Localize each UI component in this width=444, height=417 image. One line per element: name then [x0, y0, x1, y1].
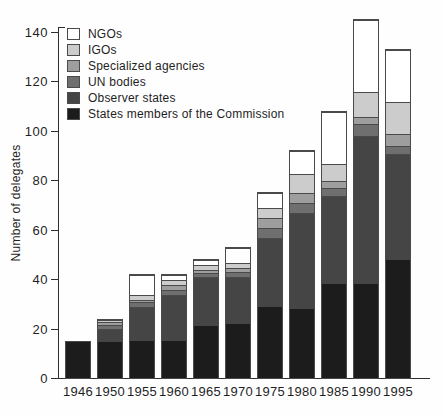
bar-segment-states-members-of-the-commission — [226, 324, 250, 378]
legend-label: NGOs — [88, 27, 122, 41]
bar-segment-un-bodies — [290, 203, 314, 213]
bar-segment-igos — [322, 164, 346, 181]
y-tick — [51, 32, 58, 33]
y-tick-label: 20 — [18, 322, 48, 337]
y-tick — [51, 230, 58, 231]
legend-item-ngos: NGOs — [67, 26, 284, 42]
bar-segment-specialized-agencies — [386, 134, 410, 146]
legend-item-igos: IGOs — [67, 42, 284, 58]
y-axis-title: Number of delegates — [9, 138, 23, 268]
bar-segment-igos — [354, 92, 378, 117]
bar-segment-states-members-of-the-commission — [386, 260, 410, 378]
bar-segment-specialized-agencies — [290, 193, 314, 203]
legend-item-states-members: States members of the Commission — [67, 106, 284, 122]
y-tick-label: 100 — [18, 124, 48, 139]
bar-segment-observer-states — [322, 196, 346, 285]
y-tick-label: 0 — [18, 371, 48, 386]
legend-swatch-un-bodies — [67, 76, 80, 88]
bar-segment-observer-states — [290, 213, 314, 309]
bar-segment-igos — [290, 174, 314, 194]
legend: NGOsIGOsSpecialized agenciesUN bodiesObs… — [67, 26, 284, 122]
legend-swatch-observer-states — [67, 92, 80, 104]
bar-segment-states-members-of-the-commission — [162, 341, 186, 378]
bar-segment-ngos — [226, 248, 250, 263]
y-tick — [51, 279, 58, 280]
legend-label: States members of the Commission — [88, 107, 284, 121]
legend-label: Observer states — [88, 91, 176, 105]
bar-segment-observer-states — [226, 277, 250, 324]
legend-swatch-ngos — [67, 28, 80, 40]
bar-1965 — [193, 259, 219, 379]
y-tick — [51, 81, 58, 82]
bar-segment-states-members-of-the-commission — [354, 284, 378, 378]
legend-swatch-specialized-agencies — [67, 60, 80, 72]
bar-segment-igos — [386, 102, 410, 134]
y-tick — [51, 329, 58, 330]
bar-segment-states-members-of-the-commission — [290, 309, 314, 378]
bar-segment-states-members-of-the-commission — [322, 284, 346, 378]
bar-segment-un-bodies — [354, 124, 378, 136]
legend-swatch-igos — [67, 44, 80, 56]
y-axis-top-hook — [58, 27, 65, 28]
bar-segment-observer-states — [162, 295, 186, 342]
bar-segment-observer-states — [354, 136, 378, 284]
bar-segment-states-members-of-the-commission — [194, 326, 218, 378]
bar-segment-states-members-of-the-commission — [98, 342, 122, 378]
bar-segment-states-members-of-the-commission — [130, 341, 154, 378]
bar-1995 — [385, 49, 411, 379]
bar-segment-observer-states — [130, 307, 154, 341]
bar-segment-specialized-agencies — [322, 181, 346, 188]
bar-1985 — [321, 111, 347, 379]
bar-1946 — [65, 341, 91, 379]
bar-segment-ngos — [322, 112, 346, 164]
legend-item-specialized-agencies: Specialized agencies — [67, 58, 284, 74]
legend-item-un-bodies: UN bodies — [67, 74, 284, 90]
bar-1980 — [289, 150, 315, 379]
bar-segment-un-bodies — [386, 146, 410, 153]
bar-segment-states-members-of-the-commission — [66, 342, 90, 378]
bar-segment-ngos — [258, 193, 282, 208]
bar-1990 — [353, 19, 379, 379]
bar-segment-ngos — [130, 275, 154, 295]
y-tick-label: 80 — [18, 173, 48, 188]
y-tick — [51, 378, 58, 379]
bar-segment-specialized-agencies — [354, 117, 378, 124]
bar-1950 — [97, 319, 123, 379]
bar-segment-igos — [258, 208, 282, 218]
legend-label: IGOs — [88, 43, 117, 57]
y-tick — [51, 131, 58, 132]
bar-1975 — [257, 192, 283, 379]
legend-label: Specialized agencies — [88, 59, 205, 73]
bar-1955 — [129, 274, 155, 379]
legend-item-observer-states: Observer states — [67, 90, 284, 106]
chart-figure: Number of delegates 02040608010012014019… — [0, 0, 444, 417]
bar-segment-ngos — [386, 50, 410, 102]
bar-segment-observer-states — [258, 238, 282, 307]
y-tick-label: 40 — [18, 272, 48, 287]
y-axis-line — [58, 27, 59, 379]
y-tick-label: 60 — [18, 223, 48, 238]
bar-segment-ngos — [290, 151, 314, 173]
bar-segment-un-bodies — [322, 188, 346, 195]
bar-segment-states-members-of-the-commission — [258, 307, 282, 378]
bar-segment-specialized-agencies — [258, 218, 282, 228]
bar-segment-observer-states — [386, 154, 410, 260]
y-tick-label: 120 — [18, 74, 48, 89]
legend-swatch-states-members — [67, 108, 80, 120]
bar-segment-observer-states — [194, 277, 218, 326]
bar-1960 — [161, 274, 187, 379]
bar-segment-ngos — [354, 20, 378, 92]
bar-1970 — [225, 247, 251, 379]
x-tick-label: 1995 — [378, 384, 418, 399]
bar-segment-un-bodies — [258, 228, 282, 238]
legend-label: UN bodies — [88, 75, 146, 89]
y-tick-label: 140 — [18, 25, 48, 40]
y-tick — [51, 180, 58, 181]
bar-segment-observer-states — [98, 329, 122, 341]
